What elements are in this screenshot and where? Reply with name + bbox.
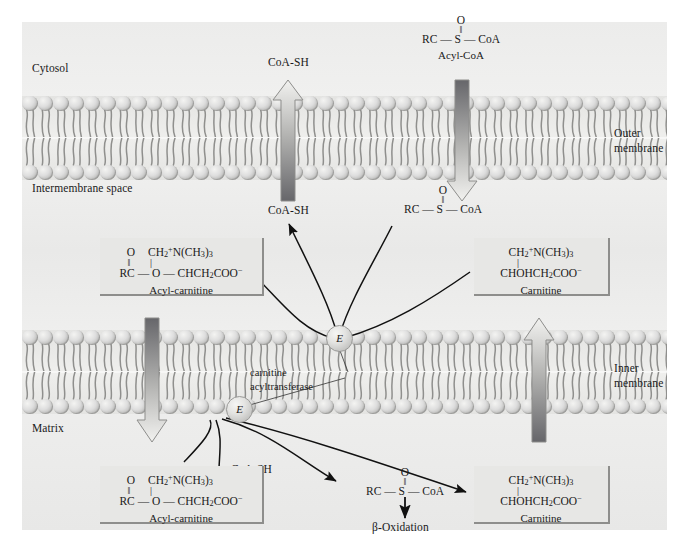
acyl-carnitine-box-matrix: OCH2+N(CH3)3 ‖| RC — O — CHCH2COO− Acyl-… — [100, 466, 264, 524]
phospholipid-head — [240, 165, 256, 180]
phospholipid-head — [583, 96, 599, 111]
outer-membrane-label-line2: membrane — [614, 142, 663, 154]
phospholipid-head — [256, 399, 272, 414]
acyl-coa-chain-intermembrane: RC — S — CoA — [378, 203, 508, 216]
phospholipid-head — [615, 399, 631, 414]
phospholipid-head — [287, 399, 303, 414]
phospholipid-head — [630, 399, 646, 414]
lipid-tail-layer — [22, 110, 667, 138]
lipid-tail-layer — [22, 372, 667, 400]
phospholipid-head — [209, 96, 225, 111]
acyl-coa-chain-cytosol: RC — S — CoA — [396, 33, 526, 46]
phospholipid-head — [365, 96, 381, 111]
phospholipid-head — [599, 399, 615, 414]
phospholipid-head — [412, 165, 428, 180]
phospholipid-head — [599, 165, 615, 180]
phospholipid-head — [396, 399, 412, 414]
phospholipid-head — [505, 96, 521, 111]
phospholipid-head — [53, 330, 69, 345]
phospholipid-head — [459, 330, 475, 345]
outer-membrane — [22, 96, 667, 180]
phospholipid-head — [131, 96, 147, 111]
phospholipid-head — [474, 399, 490, 414]
carnitine-name-matrix: Carnitine — [484, 512, 598, 524]
phospholipid-head — [84, 399, 100, 414]
phospholipid-head — [256, 330, 272, 345]
phospholipid-head — [225, 165, 241, 180]
phospholipid-head — [116, 96, 132, 111]
phospholipid-head — [147, 165, 163, 180]
phospholipid-head — [552, 165, 568, 180]
phospholipid-head — [116, 165, 132, 180]
carnitine-chain-matrix: CHOHCH2COO− — [484, 494, 598, 509]
phospholipid-head — [194, 96, 210, 111]
phospholipid-head — [583, 330, 599, 345]
phospholipid-head — [381, 399, 397, 414]
phospholipid-head — [505, 330, 521, 345]
phospholipid-head — [396, 330, 412, 345]
phospholipid-head — [381, 165, 397, 180]
phospholipid-head — [287, 330, 303, 345]
phospholipid-head — [443, 399, 459, 414]
phospholipid-head — [53, 399, 69, 414]
beta-oxidation-label: β-Oxidation — [372, 521, 429, 533]
phospholipid-head — [225, 96, 241, 111]
coash-transport-arrow — [270, 78, 306, 207]
enzyme-circle-matrix-face: E — [226, 396, 253, 423]
phospholipid-head — [225, 330, 241, 345]
phospholipid-head — [178, 96, 194, 111]
phospholipid-head — [318, 165, 334, 180]
phospholipid-head — [505, 399, 521, 414]
phospholipid-head — [100, 96, 116, 111]
phospholipid-head — [396, 96, 412, 111]
phospholipid-head — [381, 96, 397, 111]
phospholipid-head — [412, 96, 428, 111]
phospholipid-head — [318, 399, 334, 414]
phospholipid-head — [349, 96, 365, 111]
phospholipid-head — [84, 165, 100, 180]
phospholipid-head — [349, 399, 365, 414]
carnitine-box-matrix: CH2+N(CH3)3 | CHOHCH2COO− Carnitine — [474, 466, 610, 524]
carnitine-shuttle-diagram: Cytosol Intermembrane space Matrix Outer… — [0, 0, 689, 550]
phospholipid-head — [69, 399, 85, 414]
phospholipid-head — [490, 96, 506, 111]
phospholipid-head — [69, 165, 85, 180]
phospholipid-head — [427, 96, 443, 111]
enzyme-label-line2: acyltransferase — [250, 381, 313, 394]
phospholipid-head — [53, 165, 69, 180]
phospholipid-head — [365, 399, 381, 414]
phospholipid-head — [100, 399, 116, 414]
phospholipid-head — [490, 165, 506, 180]
phospholipid-head — [194, 330, 210, 345]
phospholipid-head — [84, 96, 100, 111]
coash-label-cytosol: CoA-SH — [268, 56, 309, 68]
phospholipid-head — [646, 165, 662, 180]
compartment-label-matrix: Matrix — [32, 422, 64, 434]
phospholipid-head — [38, 96, 54, 111]
phospholipid-head — [661, 96, 667, 111]
acyl-carnitine-name-matrix: Acyl-carnitine — [110, 512, 252, 524]
phospholipid-head — [646, 399, 662, 414]
acyl-carnitine-chain-matrix: RC — O — CHCH2COO− — [110, 494, 252, 509]
phospholipid-head — [661, 330, 667, 345]
phospholipid-head — [272, 330, 288, 345]
phospholipid-head — [194, 165, 210, 180]
lipid-tail-layer — [22, 138, 667, 166]
phospholipid-head — [209, 399, 225, 414]
phospholipid-head — [599, 330, 615, 345]
carnitine-transport-arrow — [521, 316, 557, 448]
carnitine-box-intermembrane: CH2+N(CH3)3 | CHOHCH2COO− Carnitine — [474, 238, 610, 296]
acyl-carnitine-transport-arrow — [134, 316, 170, 448]
acyl-coa-structure-matrix: O ‖ RC — S — CoA — [340, 466, 470, 498]
phospholipid-head — [116, 399, 132, 414]
enzyme-label-line1: carnitine — [250, 367, 287, 380]
phospholipid-head — [443, 330, 459, 345]
phospholipid-head — [162, 96, 178, 111]
carnitine-chain-im: CHOHCH2COO− — [484, 266, 598, 281]
phospholipid-head — [412, 399, 428, 414]
phospholipid-head — [490, 399, 506, 414]
phospholipid-head — [427, 399, 443, 414]
phospholipid-head — [131, 165, 147, 180]
acyl-carnitine-name-im: Acyl-carnitine — [110, 284, 252, 296]
phospholipid-head — [178, 165, 194, 180]
